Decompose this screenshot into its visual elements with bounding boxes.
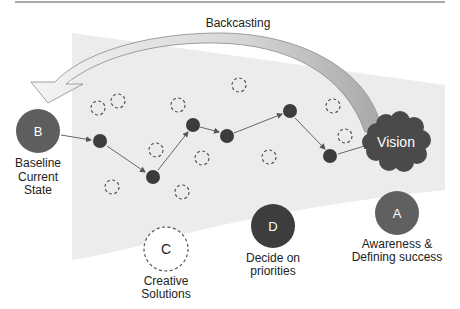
path-node [220,129,234,143]
baseline-label-line3: State [24,183,52,197]
baseline-letter: B [34,124,43,139]
path-node [146,170,160,184]
creative-letter: C [161,241,171,257]
awareness-label-line2: Defining success [352,250,443,264]
path-node [323,149,337,163]
decide-label-line1: Decide on [246,251,300,265]
awareness-label-line1: Awareness & [362,237,432,251]
vision-label: Vision [377,134,415,150]
decide-label-line2: priorities [250,264,295,278]
path-node [93,134,107,148]
baseline-label-line2: Current [18,170,59,184]
path-node [186,118,200,132]
backcasting-label: Backcasting [206,16,271,30]
baseline-label-line1: Baseline [15,156,61,170]
creative-label-line1: Creative [144,274,189,288]
backcasting-diagram: Backcasting [0,0,460,309]
awareness-letter: A [393,206,402,221]
decide-letter: D [268,219,277,234]
creative-label-line2: Solutions [141,287,190,301]
path-node [283,104,297,118]
